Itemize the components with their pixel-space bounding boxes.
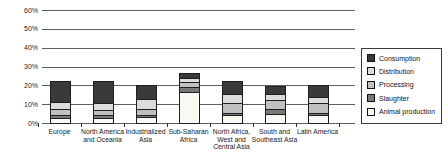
bar-segment-consumption: [137, 86, 156, 99]
y-tick-label: 10%: [10, 100, 38, 109]
gridline-40: [42, 48, 355, 49]
bar-segment-processing: [309, 103, 328, 112]
legend-item-distribution: Distribution: [367, 67, 435, 75]
bar-segment-animal-production: [137, 117, 156, 123]
bar-segment-distribution: [51, 102, 70, 109]
bar-6: [265, 86, 286, 124]
x-axis-tick: [124, 123, 125, 127]
x-axis-tick: [296, 123, 297, 127]
bar-segment-distribution: [266, 94, 285, 101]
bar-segment-distribution: [223, 94, 242, 103]
legend-swatch-icon: [367, 108, 375, 116]
legend: ConsumptionDistributionProcessingSlaught…: [361, 48, 442, 124]
stacked-bar-chart: 0%10%20%30%40%50%60% EuropeNorth America…: [0, 0, 448, 161]
bar-segment-animal-production: [266, 114, 285, 123]
bar-segment-consumption: [223, 82, 242, 94]
x-axis-label: Europe: [35, 128, 84, 136]
bar-segment-consumption: [309, 86, 328, 96]
x-axis-label: Industrialized Asia: [121, 128, 170, 143]
y-tick-label: 20%: [10, 81, 38, 90]
bar-segment-distribution: [309, 97, 328, 104]
y-tick-label: 40%: [10, 43, 38, 52]
bar-segment-animal-production: [180, 92, 199, 123]
x-axis-tick: [81, 123, 82, 127]
x-axis-tick: [339, 123, 340, 127]
bar-5: [222, 81, 243, 124]
x-axis-label: Sub-Saharan Africa: [164, 128, 213, 143]
legend-swatch-icon: [367, 54, 375, 62]
y-tick-label: 50%: [10, 24, 38, 33]
legend-swatch-icon: [367, 67, 375, 75]
y-tick-label: 30%: [10, 62, 38, 71]
bar-segment-distribution: [94, 103, 113, 110]
x-axis-label: Latin America: [293, 128, 342, 136]
legend-swatch-icon: [367, 94, 375, 102]
x-axis-tick: [253, 123, 254, 127]
x-axis-label: South and Southeast Asia: [250, 128, 299, 143]
x-axis-tick: [38, 123, 39, 127]
bar-segment-animal-production: [94, 118, 113, 123]
gridline-60: [42, 10, 355, 11]
x-axis-tick: [210, 123, 211, 127]
legend-label: Consumption: [379, 55, 420, 62]
bar-4: [179, 73, 200, 124]
gridline-50: [42, 29, 355, 30]
bar-segment-processing: [266, 100, 285, 108]
bar-segment-processing: [223, 103, 242, 112]
bar-segment-animal-production: [51, 118, 70, 123]
x-axis-label: North America and Oceania: [78, 128, 127, 143]
legend-item-consumption: Consumption: [367, 54, 435, 62]
legend-swatch-icon: [367, 81, 375, 89]
bar-segment-animal-production: [309, 115, 328, 123]
x-axis-tick: [167, 123, 168, 127]
legend-item-animal-production: Animal production: [367, 108, 435, 116]
bar-segment-distribution: [137, 99, 156, 108]
legend-item-slaughter: Slaughter: [367, 94, 435, 102]
bar-segment-consumption: [266, 87, 285, 94]
legend-label: Slaughter: [379, 95, 409, 102]
bar-3: [136, 85, 157, 124]
y-tick-label: 60%: [10, 6, 38, 15]
legend-label: Distribution: [379, 68, 414, 75]
bar-7: [308, 85, 329, 124]
x-axis-label: North Africa, West and Central Asia: [207, 128, 256, 151]
bar-segment-animal-production: [223, 115, 242, 123]
legend-label: Animal production: [379, 108, 435, 115]
legend-item-processing: Processing: [367, 81, 435, 89]
y-tick-label: 0%: [10, 119, 38, 128]
gridline-30: [42, 67, 355, 68]
bar-1: [50, 81, 71, 124]
legend-label: Processing: [379, 81, 414, 88]
bar-2: [93, 81, 114, 124]
bar-segment-consumption: [51, 82, 70, 103]
bar-segment-consumption: [94, 82, 113, 104]
